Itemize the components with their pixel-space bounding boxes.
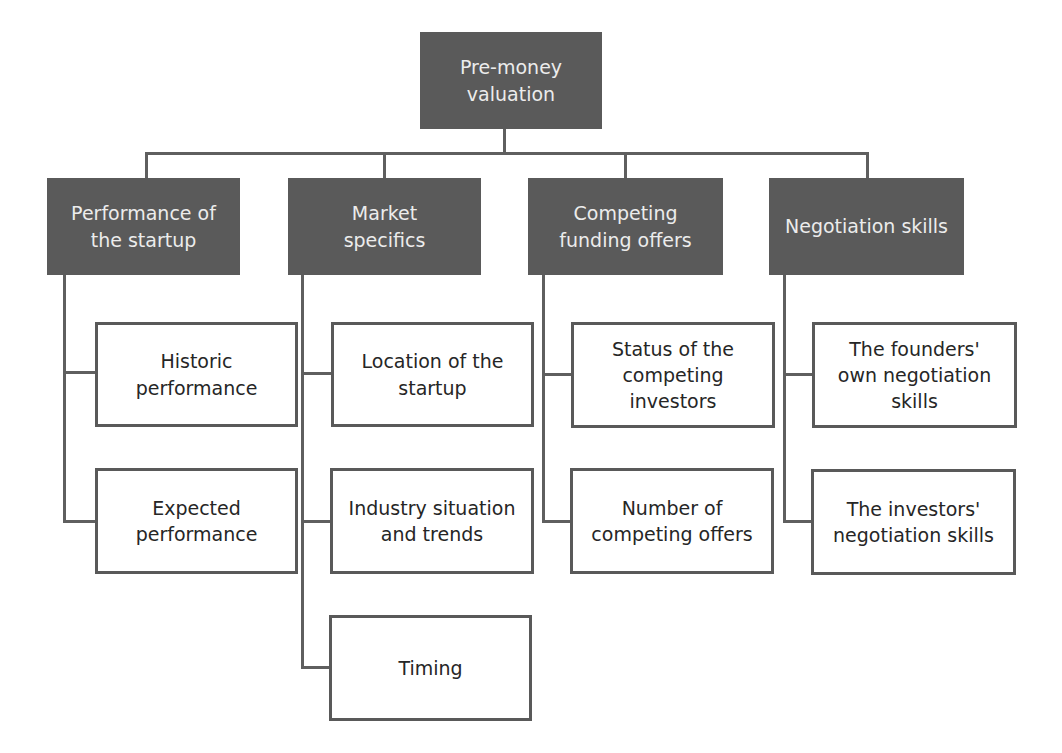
connector-col4-branch-1 (783, 373, 814, 376)
category-negotiation-skills: Negotiation skills (769, 178, 964, 275)
historic-line-2: performance (136, 375, 258, 401)
category-3-line-1: Competing (559, 200, 691, 226)
connector-drop-4 (866, 152, 869, 178)
node-historic-performance: Historic performance (95, 322, 298, 427)
connector-drop-3 (624, 152, 627, 178)
founders-line-1: The founders' (838, 336, 991, 362)
connector-col1-vertical (63, 275, 66, 523)
status-line-2: competing (612, 362, 734, 388)
status-line-1: Status of the (612, 336, 734, 362)
node-timing: Timing (329, 615, 532, 721)
expected-line-2: performance (136, 521, 258, 547)
node-industry-situation-and-trends: Industry situation and trends (330, 468, 534, 574)
expected-line-1: Expected (136, 495, 258, 521)
founders-line-3: skills (838, 388, 991, 414)
connector-col3-vertical (542, 275, 545, 522)
connector-col4-branch-2 (783, 520, 814, 523)
node-founders-own-negotiation-skills: The founders' own negotiation skills (812, 322, 1017, 428)
location-line-2: startup (362, 375, 504, 401)
category-market-specifics: Market specifics (288, 178, 481, 275)
connector-col1-branch-2 (63, 520, 97, 523)
founders-line-2: own negotiation (838, 362, 991, 388)
root-label-line-1: Pre-money (460, 54, 562, 80)
category-2-line-2: specifics (344, 227, 426, 253)
connector-col2-branch-1 (301, 372, 335, 375)
category-2-line-1: Market (344, 200, 426, 226)
status-line-3: investors (612, 388, 734, 414)
node-number-of-competing-offers: Number of competing offers (570, 468, 774, 574)
category-competing-funding-offers: Competing funding offers (528, 178, 723, 275)
historic-line-1: Historic (136, 348, 258, 374)
connector-col1-branch-1 (63, 371, 97, 374)
connector-bus (145, 152, 869, 155)
category-performance-of-startup: Performance of the startup (47, 178, 240, 275)
node-investors-negotiation-skills: The investors' negotiation skills (811, 469, 1016, 575)
connector-root-down (503, 129, 506, 154)
connector-drop-1 (145, 152, 148, 178)
category-1-line-1: Performance of (71, 200, 216, 226)
investors-line-2: negotiation skills (833, 522, 994, 548)
category-4-line-1: Negotiation skills (785, 213, 948, 239)
root-node-pre-money-valuation: Pre-money valuation (420, 32, 602, 129)
connector-drop-2 (383, 152, 386, 178)
category-1-line-2: the startup (71, 227, 216, 253)
node-status-of-competing-investors: Status of the competing investors (571, 322, 775, 428)
number-line-2: competing offers (591, 521, 752, 547)
number-line-1: Number of (591, 495, 752, 521)
root-label-line-2: valuation (460, 81, 562, 107)
industry-line-2: and trends (349, 521, 516, 547)
investors-line-1: The investors' (833, 496, 994, 522)
category-3-line-2: funding offers (559, 227, 691, 253)
industry-line-1: Industry situation (349, 495, 516, 521)
location-line-1: Location of the (362, 348, 504, 374)
connector-col2-vertical (301, 275, 304, 669)
connector-col4-vertical (783, 275, 786, 523)
node-expected-performance: Expected performance (95, 468, 298, 574)
timing-line-1: Timing (398, 655, 462, 681)
node-location-of-startup: Location of the startup (331, 322, 534, 427)
